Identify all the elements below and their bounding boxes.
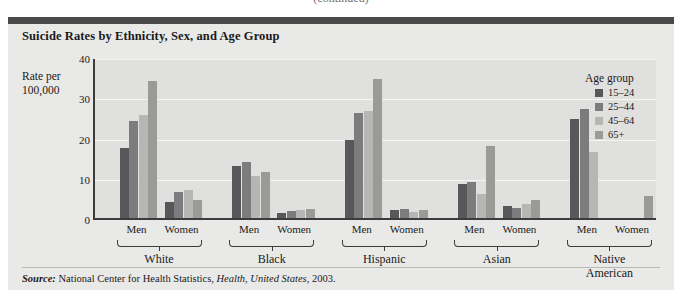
bar	[486, 146, 495, 218]
ethnicity-axis-label: Hispanic	[363, 252, 406, 266]
bar	[242, 162, 251, 218]
legend-label: 25–44	[608, 101, 634, 112]
legend-item: 15–24	[595, 87, 634, 98]
y-axis-tick-label: 20	[79, 134, 90, 146]
group-brace	[117, 240, 202, 247]
sex-axis-label: Women	[390, 223, 424, 235]
bar	[193, 200, 202, 218]
sex-axis-label: Women	[615, 223, 649, 235]
source-text-1: National Center for Health Statistics,	[56, 273, 217, 284]
legend-label: 65+	[608, 129, 624, 140]
source-label: Source:	[22, 273, 56, 284]
bar	[251, 176, 260, 218]
y-axis-title: Rate per 100,000	[22, 69, 61, 97]
group-brace-stem	[159, 247, 160, 251]
bar	[419, 210, 428, 218]
ethnicity-axis-label: White	[144, 252, 173, 266]
sex-axis-label: Men	[126, 223, 146, 235]
legend-swatch-icon	[595, 117, 603, 125]
y-axis-tick-label: 40	[79, 53, 90, 65]
bar	[184, 190, 193, 218]
y-axis-tick-label: 10	[79, 174, 90, 186]
source-divider	[22, 267, 660, 268]
bars-layer	[95, 59, 656, 218]
bar	[531, 200, 540, 218]
bar	[409, 212, 418, 218]
figure-panel: Suicide Rates by Ethnicity, Sex, and Age…	[8, 17, 674, 290]
legend-item: 25–44	[595, 101, 634, 112]
y-axis-title-line1: Rate per	[22, 69, 61, 83]
legend-swatch-icon	[595, 89, 603, 97]
legend-label: 45–64	[608, 115, 634, 126]
legend-item: 65+	[595, 129, 634, 140]
sex-axis-label: Women	[165, 223, 199, 235]
bar	[503, 206, 512, 218]
bar	[354, 113, 363, 218]
bar	[570, 119, 579, 218]
bar	[174, 192, 183, 218]
page-header-text: (continued)	[313, 0, 368, 6]
bar	[644, 196, 653, 218]
bar	[477, 194, 486, 218]
bar	[345, 140, 354, 218]
legend-swatch-icon	[595, 103, 603, 111]
group-brace	[229, 240, 314, 247]
bar	[589, 152, 598, 218]
source-publication: Health, United States	[217, 273, 307, 284]
y-axis-tick-label: 30	[79, 93, 90, 105]
bar	[467, 182, 476, 218]
bar	[139, 115, 148, 218]
group-brace	[342, 240, 427, 247]
legend-swatch-icon	[595, 131, 603, 139]
bar	[277, 213, 286, 218]
sex-axis-label: Men	[464, 223, 484, 235]
legend-item: 45–64	[595, 115, 634, 126]
legend-items: 15–2425–4445–6465+	[585, 87, 634, 140]
plot-area: 010203040	[93, 59, 656, 220]
source-text-2: , 2003.	[307, 273, 336, 284]
sex-axis-label: Women	[502, 223, 536, 235]
legend-title: Age group	[585, 72, 634, 84]
group-brace-stem	[609, 247, 610, 251]
group-brace	[567, 240, 652, 247]
group-brace	[454, 240, 539, 247]
ethnicity-axis-label: Native American	[586, 252, 633, 280]
group-brace-stem	[497, 247, 498, 251]
bar	[296, 210, 305, 218]
bar	[512, 208, 521, 218]
bar	[148, 81, 157, 218]
bar	[287, 211, 296, 218]
bar	[522, 204, 531, 218]
bar	[165, 202, 174, 218]
bar	[232, 166, 241, 218]
sex-axis-label: Men	[577, 223, 597, 235]
source-note: Source: National Center for Health Stati…	[22, 273, 336, 284]
legend: Age group 15–2425–4445–6465+	[585, 72, 634, 143]
bar	[373, 79, 382, 218]
sex-axis-label: Men	[239, 223, 259, 235]
bar	[120, 148, 129, 218]
bar	[364, 111, 373, 218]
sex-axis-label: Men	[352, 223, 372, 235]
group-brace-stem	[384, 247, 385, 251]
page-header-clipped: (continued)	[0, 0, 682, 11]
bar	[390, 210, 399, 218]
y-axis-title-line2: 100,000	[22, 83, 61, 97]
bar	[306, 209, 315, 218]
ethnicity-axis-label: Asian	[483, 252, 511, 266]
bar	[129, 121, 138, 218]
y-axis-tick-label: 0	[85, 214, 91, 226]
group-brace-stem	[272, 247, 273, 251]
figure-top-rule	[8, 17, 674, 24]
legend-label: 15–24	[608, 87, 634, 98]
bar	[458, 184, 467, 218]
bar	[400, 209, 409, 218]
ethnicity-axis-label: Black	[258, 252, 286, 266]
sex-axis-label: Women	[277, 223, 311, 235]
bar	[261, 172, 270, 218]
figure-title: Suicide Rates by Ethnicity, Sex, and Age…	[22, 29, 280, 44]
